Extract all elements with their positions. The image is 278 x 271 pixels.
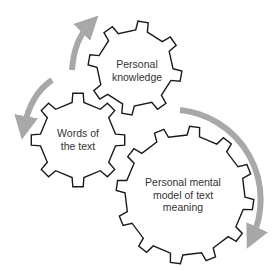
arrow-up-icon [72,24,90,70]
label-line: model of text [145,189,221,202]
gear-label-personal-mental-model: Personal mental model of text meaning [145,176,221,214]
label-line: knowledge [112,70,162,83]
label-line: the text [57,139,99,152]
label-line: Personal [112,58,162,71]
gear-label-personal-knowledge: Personal knowledge [112,58,162,83]
label-line: Personal mental [145,176,221,189]
diagram-canvas [0,0,278,271]
label-line: Words of [57,127,99,140]
gear-label-words-of-the-text: Words of the text [57,127,99,152]
gears-diagram: Personal knowledge Words of the text Per… [0,0,278,271]
label-line: meaning [145,201,221,214]
